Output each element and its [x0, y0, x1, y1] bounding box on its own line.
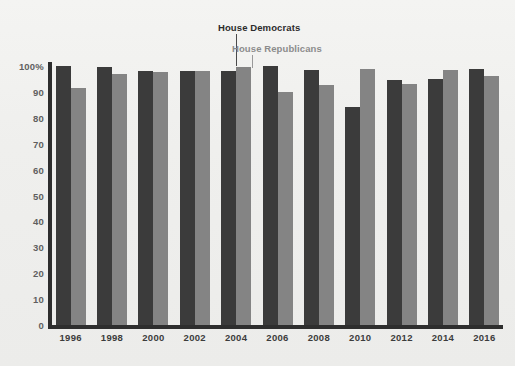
x-axis-tick-label-2000: 2000: [142, 332, 164, 343]
bar-group: [304, 66, 334, 325]
bar-group: [97, 66, 127, 325]
bar-republicans-2012: [402, 84, 417, 325]
series-label-house-democrats: House Democrats: [218, 22, 300, 33]
bar-group: [345, 66, 375, 325]
x-axis-tick-label-2016: 2016: [473, 332, 495, 343]
y-axis-tick-label: 10: [33, 294, 44, 305]
bar-republicans-2006: [278, 92, 293, 325]
bar-democrats-2006: [263, 66, 278, 325]
bar-republicans-1996: [71, 88, 86, 325]
bar-republicans-2002: [195, 71, 210, 325]
bar-republicans-2000: [153, 72, 168, 325]
y-axis-tick-label: 50: [33, 190, 44, 201]
bar-democrats-2004: [221, 71, 236, 325]
bar-group: [469, 66, 499, 325]
x-axis-tick-label-2002: 2002: [184, 332, 206, 343]
bar-republicans-2014: [443, 70, 458, 325]
bar-democrats-2010: [345, 107, 360, 325]
bar-group: [428, 66, 458, 325]
y-axis-tick-label: 60: [33, 164, 44, 175]
bar-republicans-1998: [112, 74, 127, 325]
y-axis-tick-label: 80: [33, 112, 44, 123]
bar-democrats-2008: [304, 70, 319, 325]
x-axis-tick-label-1998: 1998: [101, 332, 123, 343]
y-axis-tick-label: 20: [33, 268, 44, 279]
y-axis: 100%9080706050403020100: [0, 0, 44, 366]
bar-group: [263, 66, 293, 325]
x-axis-tick-label-2008: 2008: [308, 332, 330, 343]
bar-republicans-2008: [319, 85, 334, 325]
bar-democrats-2000: [138, 71, 153, 325]
bars-layer: [48, 66, 503, 325]
bar-democrats-2002: [180, 71, 195, 325]
bar-group: [221, 66, 251, 325]
bar-democrats-1996: [56, 66, 71, 325]
bar-group: [56, 66, 86, 325]
x-axis-tick-label-2006: 2006: [266, 332, 288, 343]
x-axis-line: [48, 325, 503, 329]
x-axis-tick-label-2010: 2010: [349, 332, 371, 343]
series-label-house-republicans: House Republicans: [232, 43, 322, 54]
x-axis-tick-label-2004: 2004: [225, 332, 247, 343]
y-axis-tick-label: 40: [33, 216, 44, 227]
y-axis-tick-label: 100%: [19, 61, 44, 72]
bar-democrats-2012: [387, 80, 402, 325]
chart-container: 100%9080706050403020100 1996199820002002…: [0, 0, 515, 366]
bar-democrats-1998: [97, 67, 112, 325]
leader-line-democrats: [236, 34, 237, 66]
bar-group: [138, 66, 168, 325]
y-axis-tick-label: 0: [39, 320, 44, 331]
bar-group: [387, 66, 417, 325]
bar-group: [180, 66, 210, 325]
x-axis-tick-label-2014: 2014: [432, 332, 454, 343]
x-axis-tick-label-2012: 2012: [390, 332, 412, 343]
x-axis: 1996199820002002200420062008201020122014…: [48, 332, 503, 356]
y-axis-tick-label: 70: [33, 138, 44, 149]
bar-democrats-2016: [469, 69, 484, 325]
y-axis-tick-label: 30: [33, 242, 44, 253]
y-axis-tick-label: 90: [33, 86, 44, 97]
bar-republicans-2016: [484, 76, 499, 325]
bar-republicans-2004: [236, 67, 251, 325]
bar-democrats-2014: [428, 79, 443, 325]
bar-republicans-2010: [360, 69, 375, 325]
x-axis-tick-label-1996: 1996: [60, 332, 82, 343]
